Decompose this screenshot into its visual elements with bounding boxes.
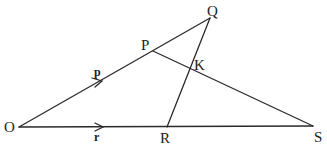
vector-label-r: r — [94, 130, 100, 144]
vector-label-p: p — [94, 65, 101, 79]
vector-triangle-diagram: O P Q K R S p r — [0, 0, 327, 152]
segment-PS — [153, 51, 313, 126]
segment-OS — [19, 126, 313, 127]
label-O: O — [4, 119, 15, 135]
segment-OQ — [19, 18, 210, 127]
label-R: R — [160, 130, 170, 146]
label-S: S — [314, 129, 322, 145]
label-K: K — [194, 57, 205, 73]
label-Q: Q — [207, 3, 218, 19]
label-P: P — [141, 37, 149, 53]
